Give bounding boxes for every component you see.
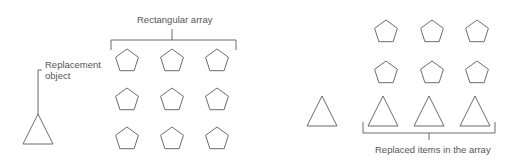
triangle-icon xyxy=(307,96,337,126)
replaced-bracket xyxy=(363,122,495,140)
array-bracket xyxy=(111,29,236,50)
pentagon-icon xyxy=(466,61,489,83)
pentagon-icon xyxy=(206,127,229,149)
replacement-label: Replacement xyxy=(45,59,101,70)
pentagon-icon xyxy=(161,49,184,71)
pentagon-icon xyxy=(161,88,184,110)
replacement-leader xyxy=(38,70,42,115)
diagram-canvas xyxy=(0,0,513,164)
pentagon-icon xyxy=(161,127,184,149)
triangle-icon xyxy=(23,114,53,144)
replaced-items-label: Replaced items in the array xyxy=(375,144,491,155)
triangle-icon xyxy=(414,96,444,126)
pentagon-icon xyxy=(206,88,229,110)
pentagon-icon xyxy=(375,61,398,83)
pentagon-icon xyxy=(421,61,444,83)
pentagon-icon xyxy=(466,20,489,42)
triangle-icon xyxy=(368,96,398,126)
pentagon-icon xyxy=(206,49,229,71)
resulting-array xyxy=(368,20,490,126)
rectangular-array xyxy=(116,49,229,149)
pentagon-icon xyxy=(116,49,139,71)
pentagon-icon xyxy=(421,20,444,42)
pentagon-icon xyxy=(116,88,139,110)
triangle-icon xyxy=(460,96,490,126)
pentagon-icon xyxy=(375,20,398,42)
pentagon-icon xyxy=(116,127,139,149)
replacement-label-line2: object xyxy=(45,70,70,81)
array-replacement-diagram: Rectangular array Replacement object Rep… xyxy=(0,0,513,164)
array-label: Rectangular array xyxy=(137,14,213,25)
